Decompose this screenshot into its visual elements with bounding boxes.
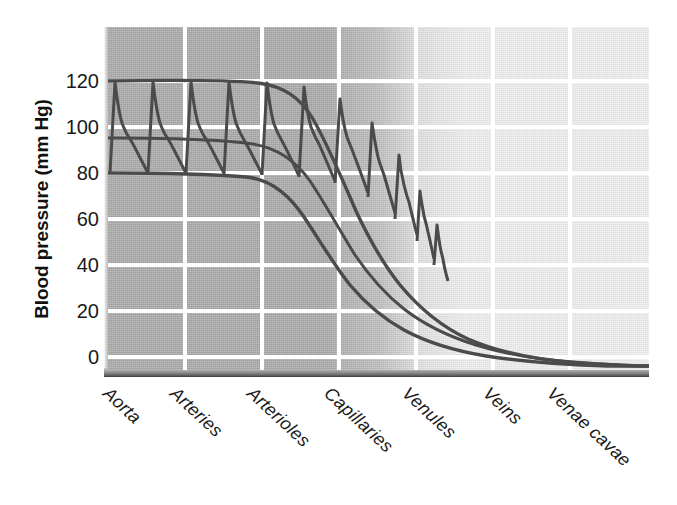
x-tick-label-aorta: Aorta [99, 383, 146, 428]
x-tick-label-arteries: Arteries [166, 383, 227, 442]
x-tick-label-veins: Veins [479, 383, 526, 429]
x-tick-label-capillaries: Capillaries [320, 383, 397, 457]
x-axis-tick-labels: Aorta Arteries Arterioles Capillaries Ve… [0, 0, 677, 505]
x-tick-label-venae-cavae: Venae cavae [543, 383, 635, 471]
x-tick-label-arterioles: Arterioles [243, 383, 314, 452]
blood-pressure-chart-figure: Blood pressure (mm Hg) 120 100 80 60 40 … [0, 0, 677, 505]
x-tick-label-venules: Venules [398, 383, 460, 443]
